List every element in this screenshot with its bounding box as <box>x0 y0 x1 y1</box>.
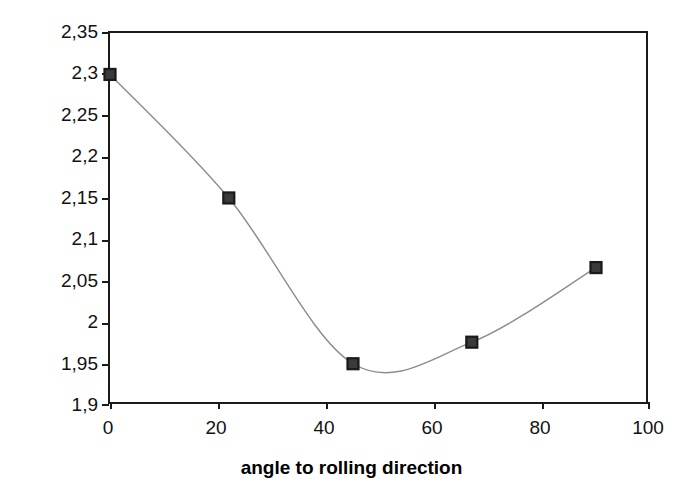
y-tick-label: 2,35 <box>14 22 98 41</box>
series-markers <box>105 69 602 369</box>
y-tick-mark <box>102 323 109 325</box>
x-axis-title-text: angle to rolling direction <box>241 457 463 479</box>
x-tick-label: 100 <box>613 418 681 437</box>
x-tick-label: 80 <box>505 418 575 437</box>
data-point-marker <box>348 358 359 369</box>
y-tick-mark <box>102 240 109 242</box>
y-tick-label: 2,15 <box>14 188 98 207</box>
chart-figure: Modulus of resilience (MPa) 2,35 2,3 2,2… <box>0 0 681 498</box>
series-line <box>110 74 596 372</box>
y-tick-mark <box>102 364 109 366</box>
y-tick-label: 2 <box>14 312 98 331</box>
y-tick-label: 2,2 <box>14 146 98 165</box>
x-axis-title: angle to rolling direction <box>0 457 681 479</box>
y-tick-mark <box>102 198 109 200</box>
y-tick-label: 1,9 <box>14 395 98 414</box>
plot-area <box>108 31 648 404</box>
x-tick-label: 0 <box>73 418 143 437</box>
data-point-marker <box>105 69 116 80</box>
y-tick-label: 2,3 <box>14 63 98 82</box>
x-tick-label: 40 <box>289 418 359 437</box>
y-tick-mark <box>102 157 109 159</box>
y-tick-label: 2,25 <box>14 105 98 124</box>
y-tick-mark <box>102 115 109 117</box>
x-tick-label: 60 <box>397 418 467 437</box>
data-point-marker <box>591 262 602 273</box>
y-tick-mark <box>102 281 109 283</box>
data-point-marker <box>223 192 234 203</box>
x-tick-label: 20 <box>181 418 251 437</box>
y-tick-mark <box>102 404 109 406</box>
series-plot <box>110 33 650 406</box>
y-tick-mark <box>102 32 109 34</box>
y-tick-label: 2,05 <box>14 271 98 290</box>
y-tick-label: 1,95 <box>14 354 98 373</box>
y-tick-label: 2,1 <box>14 229 98 248</box>
data-point-marker <box>466 337 477 348</box>
